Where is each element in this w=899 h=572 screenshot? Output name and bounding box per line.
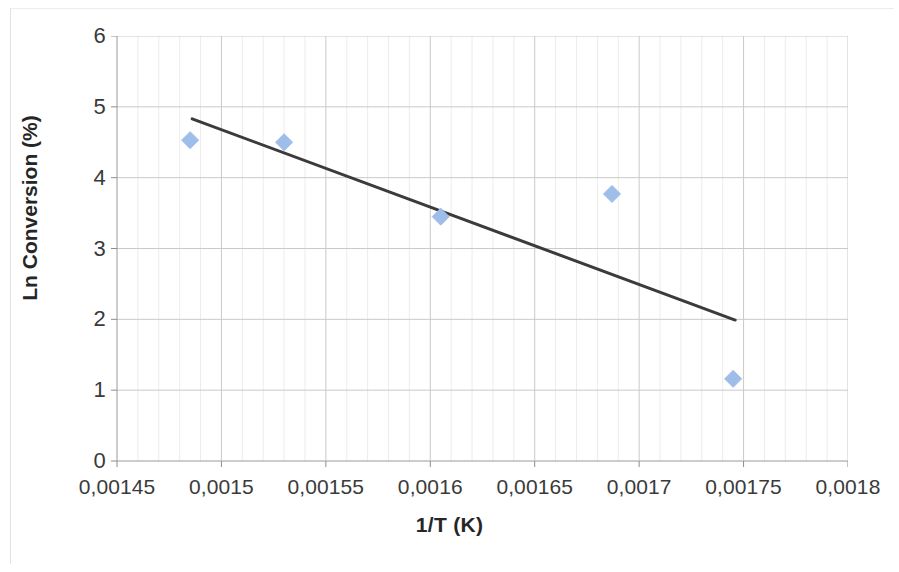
trendline xyxy=(192,119,735,320)
x-axis-tick-label: 0,00175 xyxy=(705,476,782,497)
x-axis-tick-label: 0,0015 xyxy=(189,476,254,497)
data-point-marker xyxy=(276,134,293,151)
y-axis-title: Ln Conversion (%) xyxy=(18,48,42,368)
y-axis-tick-label: 1 xyxy=(70,379,106,401)
x-axis-tick-label: 0,00155 xyxy=(288,476,365,497)
y-axis-tick-label: 5 xyxy=(70,96,106,118)
data-point-marker xyxy=(432,208,449,225)
x-axis-tick-label: 0,00165 xyxy=(496,476,573,497)
x-axis-tick-label: 0,0016 xyxy=(398,476,463,497)
y-axis-tick-label: 0 xyxy=(70,450,106,472)
y-axis-tick-label: 2 xyxy=(70,308,106,330)
x-axis-tick-label: 0,0018 xyxy=(816,476,881,497)
x-axis-tick-labels: 0,001450,00150,001550,00160,001650,00170… xyxy=(0,476,899,510)
x-axis-title: 1/T (K) xyxy=(0,513,899,537)
plot-area xyxy=(117,36,848,461)
data-point-marker xyxy=(182,132,199,149)
chart-series-layer xyxy=(117,36,848,461)
y-axis-tick-label: 6 xyxy=(70,25,106,47)
x-axis-tick-label: 0,0017 xyxy=(607,476,672,497)
data-point-marker xyxy=(725,370,742,387)
y-axis-tick-label: 4 xyxy=(70,167,106,189)
data-point-marker xyxy=(603,185,620,202)
x-axis-tick-label: 0,00145 xyxy=(79,476,156,497)
arrhenius-scatter-chart: 0123456 0,001450,00150,001550,00160,0016… xyxy=(0,0,899,572)
y-axis-tick-label: 3 xyxy=(70,238,106,260)
